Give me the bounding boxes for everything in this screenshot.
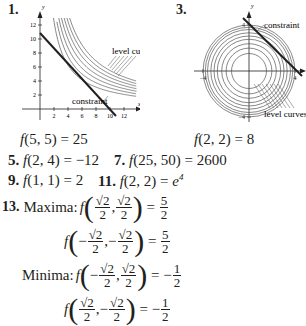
- numerator: √2: [109, 296, 125, 310]
- maxima-label: Maxima:: [24, 199, 78, 216]
- problem-3-number: 3.: [176, 2, 187, 18]
- function-args: (5, 5): [24, 131, 57, 147]
- numerator: √2: [121, 262, 137, 276]
- numerator: 1: [173, 262, 182, 276]
- x-tick-label: 8: [95, 113, 98, 119]
- problem-number: 7.: [114, 152, 125, 168]
- problem-9: 9. f(1, 1) = 2: [8, 172, 83, 189]
- x-axis-arrow-icon: [300, 69, 306, 74]
- x-tick-label: 2: [53, 113, 56, 119]
- denominator: 2: [99, 208, 106, 221]
- exponent-base: e: [172, 173, 179, 189]
- denominator: 2: [121, 208, 128, 221]
- numerator: 5: [160, 194, 169, 208]
- x-axis-arrow-icon: [136, 107, 140, 112]
- y-tick-label: −4: [239, 114, 245, 120]
- minus-sign: −: [108, 233, 116, 250]
- denominator: 2: [104, 276, 111, 289]
- minima-row-2: f( √22, −√22 ) = −12: [2, 292, 302, 326]
- problem-1-number: 1.: [8, 2, 19, 18]
- denominator: 2: [92, 242, 99, 255]
- numerator: √2: [118, 228, 134, 242]
- minima-label: Minima:: [22, 267, 74, 284]
- y-tick-label: 10: [30, 36, 36, 42]
- fraction: 52: [160, 194, 169, 221]
- fraction: √22: [79, 296, 95, 323]
- problem-13: 13. Maxima: f( √22, √22 ) = 52 f( −√22, …: [2, 190, 302, 326]
- numerator: √2: [99, 262, 115, 276]
- minus-sign: −: [90, 267, 98, 284]
- problem-number: 13.: [2, 199, 20, 215]
- function-value: = 2: [60, 172, 83, 188]
- level-curves-label: level curves: [112, 46, 140, 56]
- fraction: √22: [121, 262, 137, 289]
- minus-sign: −: [100, 301, 108, 318]
- equals-sign: =: [147, 199, 155, 216]
- level-curve: [54, 18, 137, 96]
- y-tick-label: 4: [33, 78, 36, 84]
- minima-row-1: Minima: f( −√22, √22 ) = −12: [2, 258, 302, 292]
- denominator: 2: [125, 276, 132, 289]
- problem-11: 11. f(2, 2) = e4: [98, 172, 184, 190]
- fraction: 12: [173, 262, 182, 289]
- constraint-label: constraint: [72, 96, 108, 106]
- problem-3-answer: f(2, 2) = 8: [194, 131, 254, 148]
- function-args: (2, 4): [27, 152, 60, 168]
- constraint-label: constraint: [264, 20, 300, 30]
- numerator: √2: [79, 296, 95, 310]
- numerator: √2: [95, 194, 111, 208]
- problem-5: 5. f(2, 4) = −12: [8, 152, 99, 169]
- function-args: (2, 2): [198, 131, 231, 147]
- problem-number: 5.: [8, 152, 19, 168]
- denominator: 2: [162, 242, 169, 255]
- x-tick-label: 10: [107, 113, 113, 119]
- function-args: (25, 50): [133, 152, 181, 168]
- numerator: √2: [116, 194, 132, 208]
- x-tick-label: 12: [121, 113, 127, 119]
- x-tick-label: 4: [67, 113, 70, 119]
- comma: ,: [111, 199, 115, 216]
- function-value: = −12: [60, 152, 99, 168]
- exponent: 4: [179, 172, 184, 182]
- minus-sign: −: [78, 233, 86, 250]
- problem-3-graph: y −444−4 constraint level curves: [190, 0, 306, 124]
- y-tick-label: 8: [33, 50, 36, 56]
- level-curves: [54, 18, 137, 96]
- equals-sign: =: [139, 301, 147, 318]
- denominator: 2: [122, 242, 129, 255]
- maxima-row-1: 13. Maxima: f( √22, √22 ) = 52: [2, 190, 302, 224]
- fraction: √22: [99, 262, 115, 289]
- y-axis-arrow-icon: [38, 11, 43, 18]
- x-axis-label: x: [137, 101, 140, 107]
- numerator: 1: [161, 296, 170, 310]
- problem-number: 9.: [8, 172, 19, 188]
- x-tick-label: 6: [81, 113, 84, 119]
- y-axis-label: y: [41, 4, 45, 10]
- fraction: 52: [161, 228, 170, 255]
- level-curves-leaders: [108, 56, 136, 76]
- minus-sign: −: [163, 267, 171, 284]
- comma: ,: [116, 267, 120, 284]
- maxima-row-2: f( −√22, −√22 ) = 52: [2, 224, 302, 258]
- fraction: √22: [95, 194, 111, 221]
- equals-sign: =: [156, 173, 172, 189]
- fraction: √22: [88, 228, 104, 255]
- y-axis-arrow-icon: [247, 11, 252, 18]
- numerator: √2: [88, 228, 104, 242]
- function-value: = 25: [57, 131, 88, 147]
- denominator: 2: [162, 310, 169, 323]
- denominator: 2: [161, 208, 168, 221]
- numerator: 5: [161, 228, 170, 242]
- equals-sign: =: [148, 233, 156, 250]
- function-args: (2, 2): [124, 173, 157, 189]
- fraction: 12: [161, 296, 170, 323]
- equals-sign: =: [151, 267, 159, 284]
- denominator: 2: [114, 310, 121, 323]
- function-value: = 2600: [181, 152, 227, 168]
- function-value: = 8: [231, 131, 254, 147]
- denominator: 2: [84, 310, 91, 323]
- y-axis-label: y: [250, 3, 254, 9]
- fraction: √22: [109, 296, 125, 323]
- y-tick-label: 2: [33, 92, 36, 98]
- y-tick-label: 6: [33, 64, 36, 70]
